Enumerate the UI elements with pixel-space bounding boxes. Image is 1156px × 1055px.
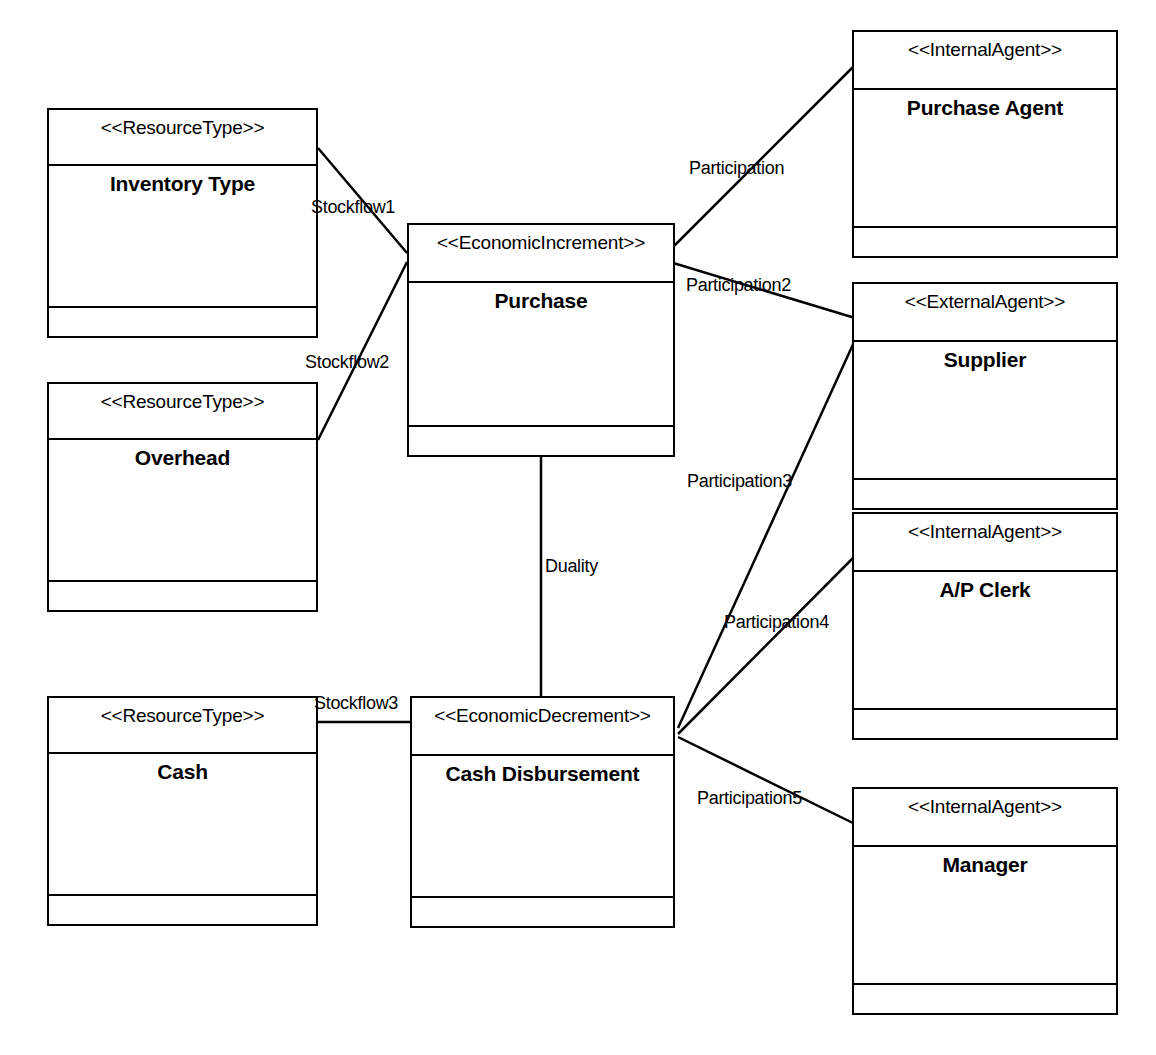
class-stereotype: <<InternalAgent>> [854,789,1116,847]
class-operations-compartment [412,898,673,926]
association-label-stockflow3: Stockflow3 [314,693,398,714]
class-name-compartment: Overhead [49,440,316,582]
class-operations-compartment [409,427,673,455]
class-name-compartment: Cash [49,754,316,896]
class-name-compartment: Purchase Agent [854,90,1116,228]
uml-class-inventory-type[interactable]: <<ResourceType>>Inventory Type [47,108,318,338]
class-stereotype: <<InternalAgent>> [854,514,1116,572]
association-label-stockflow2: Stockflow2 [305,352,389,373]
uml-class-purchase[interactable]: <<EconomicIncrement>>Purchase [407,223,675,457]
class-name-compartment: Purchase [409,283,673,427]
class-stereotype: <<ResourceType>> [49,384,316,440]
association-label-stockflow1: Stockflow1 [311,197,395,218]
class-name-compartment: Manager [854,847,1116,985]
class-operations-compartment [854,228,1116,256]
class-stereotype: <<EconomicIncrement>> [409,225,673,283]
class-operations-compartment [49,308,316,336]
class-operations-compartment [49,582,316,610]
association-line-stockflow2[interactable] [318,262,407,440]
association-label-duality: Duality [545,556,598,577]
association-label-participation4: Participation4 [724,612,829,633]
class-stereotype: <<ResourceType>> [49,698,316,754]
association-label-participation3: Participation3 [687,471,792,492]
uml-class-supplier[interactable]: <<ExternalAgent>>Supplier [852,282,1118,510]
uml-diagram-canvas: <<ResourceType>>Inventory Type<<Resource… [0,0,1156,1055]
class-operations-compartment [854,985,1116,1013]
association-line-participation4[interactable] [678,556,855,734]
class-operations-compartment [49,896,316,924]
association-label-participation2: Participation2 [686,275,791,296]
association-line-participation3[interactable] [678,340,855,728]
class-stereotype: <<EconomicDecrement>> [412,698,673,756]
class-name-compartment: Supplier [854,342,1116,480]
class-stereotype: <<ExternalAgent>> [854,284,1116,342]
uml-class-overhead[interactable]: <<ResourceType>>Overhead [47,382,318,612]
class-name-compartment: Inventory Type [49,166,316,308]
class-stereotype: <<InternalAgent>> [854,32,1116,90]
association-line-participation5[interactable] [678,737,855,824]
uml-class-purchase-agent[interactable]: <<InternalAgent>>Purchase Agent [852,30,1118,258]
class-operations-compartment [854,710,1116,738]
association-label-participation5: Participation5 [697,788,802,809]
uml-class-cash-disbursement[interactable]: <<EconomicDecrement>>Cash Disbursement [410,696,675,928]
class-name-compartment: A/P Clerk [854,572,1116,710]
class-name-compartment: Cash Disbursement [412,756,673,898]
uml-class-manager[interactable]: <<InternalAgent>>Manager [852,787,1118,1015]
class-stereotype: <<ResourceType>> [49,110,316,166]
uml-class-cash[interactable]: <<ResourceType>>Cash [47,696,318,926]
uml-class-ap-clerk[interactable]: <<InternalAgent>>A/P Clerk [852,512,1118,740]
class-operations-compartment [854,480,1116,508]
association-label-participation: Participation [689,158,784,179]
